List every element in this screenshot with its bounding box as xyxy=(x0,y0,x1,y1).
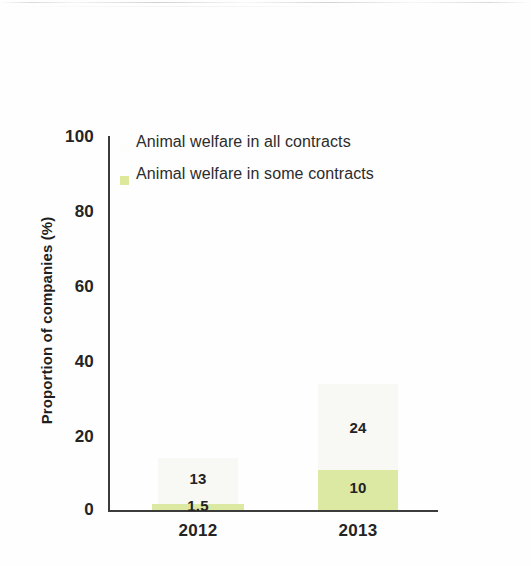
y-tick-label-40: 40 xyxy=(32,352,94,372)
y-tick-label-100: 100 xyxy=(32,127,94,147)
bar-chart: Proportion of companies (%) 100 80 60 40… xyxy=(0,0,531,566)
legend-swatch-icon-all-contracts xyxy=(120,144,129,153)
bar-value-2012-some-contracts: 1.5 xyxy=(152,497,244,514)
bar-value-2013-all-contracts: 24 xyxy=(318,419,398,436)
bar-value-2012-all-contracts: 13 xyxy=(158,470,238,487)
y-tick-label-0: 0 xyxy=(32,500,94,520)
legend-label-all-contracts: Animal welfare in all contracts xyxy=(136,133,351,151)
y-axis-line xyxy=(108,136,110,512)
x-tick-label-2013: 2013 xyxy=(298,521,418,541)
bar-value-2013-some-contracts: 10 xyxy=(318,479,398,496)
y-tick-label-80: 80 xyxy=(32,202,94,222)
y-tick-label-20: 20 xyxy=(32,427,94,447)
legend-swatch-icon-some-contracts xyxy=(120,176,129,185)
legend-label-some-contracts: Animal welfare in some contracts xyxy=(136,165,374,183)
y-tick-label-60: 60 xyxy=(32,277,94,297)
x-tick-label-2012: 2012 xyxy=(138,521,258,541)
